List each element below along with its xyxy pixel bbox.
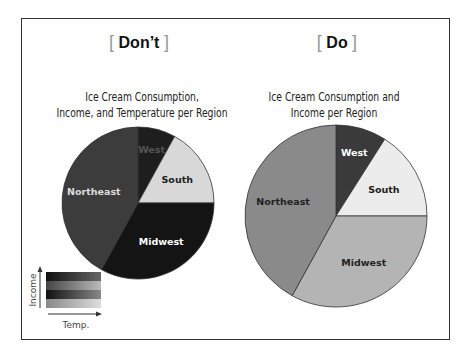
slice-label: South [162, 174, 194, 185]
slice-label: Northeast [67, 186, 121, 197]
slice-label: Midwest [139, 236, 184, 247]
charts-canvas: WestSouthMidwestNortheast WestSouthMidwe… [0, 0, 468, 356]
do-pie-chart: WestSouthMidwestNortheast [245, 125, 427, 307]
dont-pie-chart: WestSouthMidwestNortheast [62, 127, 214, 279]
legend-x-label: Temp. [62, 320, 90, 330]
slice-label: West [341, 147, 368, 158]
slice-label: West [138, 144, 165, 155]
slice-label: Northeast [256, 196, 310, 207]
slice-label: Midwest [341, 257, 386, 268]
slice-label: South [368, 184, 400, 195]
legend-y-label: Income [28, 273, 38, 307]
legend-color-key [38, 266, 103, 317]
